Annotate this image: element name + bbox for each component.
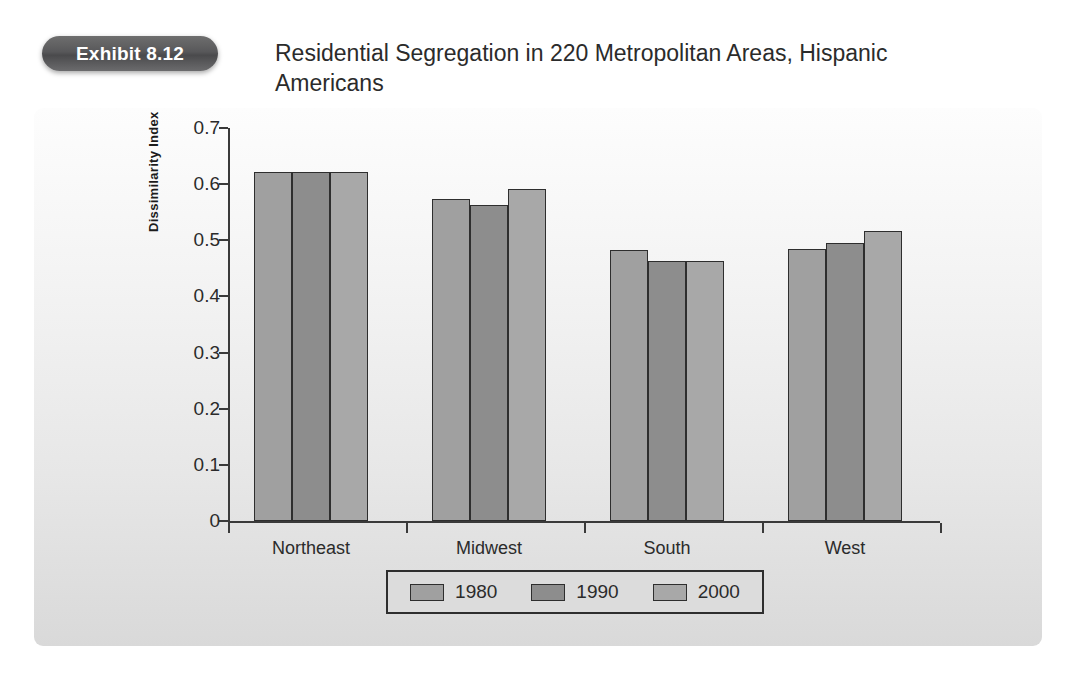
y-tick-label: 0.2 (194, 398, 220, 420)
bar-west-1980 (788, 249, 826, 521)
x-category-label-northeast: Northeast (241, 538, 381, 559)
bar-west-1990 (826, 243, 864, 521)
plot-area: 00.10.20.30.40.50.60.7 NortheastMidwestS… (228, 128, 940, 521)
x-tick-mark (584, 523, 586, 533)
bar-south-2000 (686, 261, 724, 522)
bar-midwest-2000 (508, 189, 546, 521)
y-tick-label: 0.3 (194, 342, 220, 364)
chart-legend: 198019902000 (386, 570, 764, 614)
legend-item-1990[interactable]: 1990 (531, 581, 618, 603)
exhibit-badge-label: Exhibit 8.12 (76, 43, 184, 65)
legend-label-1990: 1990 (576, 581, 618, 603)
x-tick-mark (762, 523, 764, 533)
y-axis-line (228, 128, 230, 521)
y-tick-label: 0 (209, 510, 220, 532)
y-tick-label: 0.5 (194, 229, 220, 251)
y-axis-title: Dissimilarity Index (146, 111, 161, 232)
y-tick-label: 0.4 (194, 285, 220, 307)
bar-midwest-1990 (470, 205, 508, 521)
legend-item-1980[interactable]: 1980 (410, 581, 497, 603)
legend-swatch-2000 (653, 584, 687, 601)
legend-swatch-1980 (410, 584, 444, 601)
bar-northeast-1980 (254, 172, 292, 521)
x-tick-mark (228, 523, 230, 533)
exhibit-badge: Exhibit 8.12 (42, 36, 218, 71)
legend-item-2000[interactable]: 2000 (653, 581, 740, 603)
legend-label-1980: 1980 (455, 581, 497, 603)
y-tick-label: 0.7 (194, 117, 220, 139)
y-tick-label: 0.6 (194, 173, 220, 195)
chart-title: Residential Segregation in 220 Metropoli… (275, 38, 975, 98)
bar-west-2000 (864, 231, 902, 521)
y-tick-mark (219, 520, 228, 522)
legend-swatch-1990 (531, 584, 565, 601)
y-tick-mark (219, 464, 228, 466)
bar-south-1980 (610, 250, 648, 521)
y-tick-mark (219, 127, 228, 129)
x-category-label-south: South (597, 538, 737, 559)
bar-northeast-2000 (330, 172, 368, 521)
y-tick-mark (219, 408, 228, 410)
chart-panel: 00.10.20.30.40.50.60.7 NortheastMidwestS… (34, 108, 1042, 646)
y-tick-label: 0.1 (194, 454, 220, 476)
x-category-label-west: West (775, 538, 915, 559)
y-tick-mark (219, 239, 228, 241)
x-category-label-midwest: Midwest (419, 538, 559, 559)
legend-label-2000: 2000 (698, 581, 740, 603)
x-tick-mark (940, 523, 942, 533)
bar-south-1990 (648, 261, 686, 522)
y-tick-mark (219, 352, 228, 354)
y-tick-mark (219, 295, 228, 297)
y-tick-mark (219, 183, 228, 185)
x-tick-mark (406, 523, 408, 533)
bar-northeast-1990 (292, 172, 330, 521)
bar-midwest-1980 (432, 199, 470, 521)
